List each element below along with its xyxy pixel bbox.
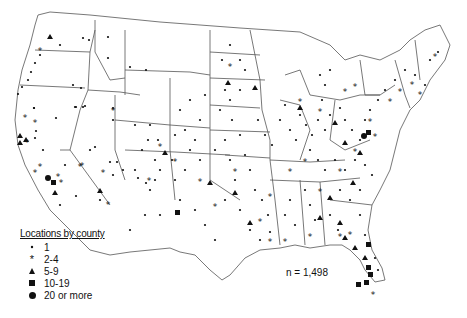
svg-text:*: * <box>38 162 43 172</box>
svg-text:*: * <box>318 187 323 197</box>
svg-text:*: * <box>38 46 43 56</box>
legend-item-20-plus: 20 or more <box>20 289 105 301</box>
svg-text:*: * <box>111 106 116 116</box>
dot-icon <box>26 244 38 250</box>
svg-text:*: * <box>173 157 178 167</box>
svg-text:*: * <box>371 290 376 300</box>
svg-text:*: * <box>338 167 343 177</box>
legend-title: Locations by county <box>20 228 105 239</box>
asterisk-icon: * <box>26 253 38 265</box>
svg-text:*: * <box>398 87 403 97</box>
svg-text:*: * <box>258 217 263 227</box>
svg-text:*: * <box>318 107 323 117</box>
svg-text:*: * <box>353 82 358 92</box>
svg-text:*: * <box>158 142 163 152</box>
total-count-label: n = 1,498 <box>286 267 328 278</box>
svg-text:*: * <box>198 177 203 187</box>
svg-text:*: * <box>268 192 273 202</box>
svg-text:*: * <box>308 232 313 242</box>
svg-text:*: * <box>106 200 111 210</box>
legend-item-2-4: * 2-4 <box>20 253 105 265</box>
svg-text:*: * <box>410 80 415 90</box>
legend-label: 5-9 <box>44 266 58 277</box>
svg-text:*: * <box>338 232 343 242</box>
svg-text:*: * <box>23 113 28 123</box>
circle-icon <box>26 291 38 300</box>
legend-item-1: 1 <box>20 241 105 253</box>
legend-label: 2-4 <box>44 254 58 265</box>
svg-text:*: * <box>101 168 106 178</box>
square-icon <box>26 279 38 287</box>
svg-text:*: * <box>368 117 373 127</box>
svg-text:*: * <box>288 167 293 177</box>
triangle-markers <box>17 34 368 260</box>
legend-label: 20 or more <box>44 290 92 301</box>
svg-text:*: * <box>418 90 423 100</box>
svg-text:*: * <box>78 162 83 172</box>
svg-text:*: * <box>388 97 393 107</box>
svg-text:*: * <box>59 178 64 188</box>
legend-label: 10-19 <box>44 278 70 289</box>
svg-text:*: * <box>348 230 353 240</box>
svg-text:*: * <box>233 167 238 177</box>
svg-text:*: * <box>433 52 438 62</box>
svg-text:*: * <box>228 62 233 72</box>
svg-text:*: * <box>343 87 348 97</box>
svg-text:*: * <box>373 132 378 142</box>
svg-text:*: * <box>213 202 218 212</box>
svg-text:*: * <box>353 147 358 157</box>
triangle-icon <box>26 267 38 275</box>
svg-text:*: * <box>33 168 38 178</box>
circle-markers <box>45 133 367 181</box>
legend-item-5-9: 5-9 <box>20 265 105 277</box>
svg-text:*: * <box>303 157 308 167</box>
svg-text:*: * <box>33 118 38 128</box>
legend-label: 1 <box>44 242 50 253</box>
legend-item-10-19: 10-19 <box>20 277 105 289</box>
map-legend: Locations by county 1 * 2-4 5-9 10-19 20… <box>20 228 105 301</box>
svg-text:*: * <box>283 237 288 247</box>
svg-text:*: * <box>268 237 273 247</box>
svg-text:*: * <box>147 176 152 186</box>
